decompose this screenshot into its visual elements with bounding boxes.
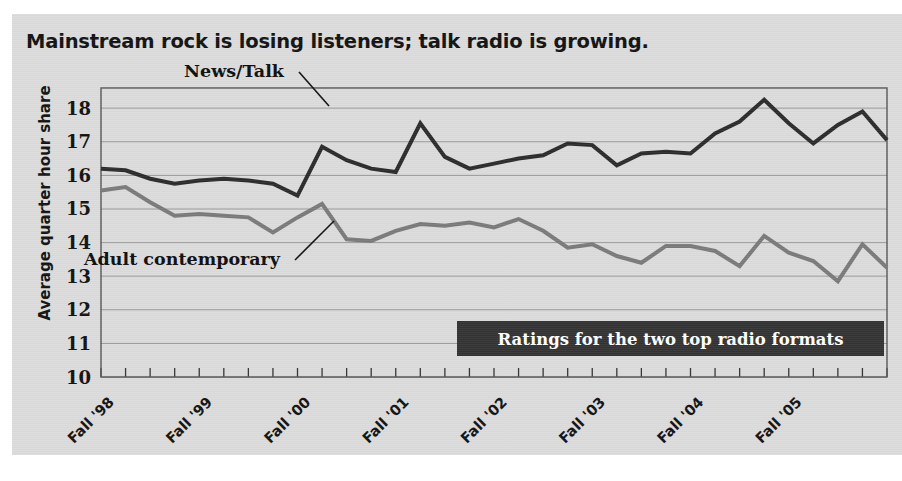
series-annotations: News/TalkAdult contemporary [83, 61, 334, 269]
x-tick-label: Fall '01 [359, 394, 412, 447]
y-tick-label: 11 [66, 333, 91, 354]
x-tick-label: Fall '00 [261, 394, 314, 447]
x-tick-label: Fall '03 [556, 394, 609, 447]
x-tick-label: Fall '98 [64, 394, 117, 447]
adult-contemporary-label: Adult contemporary [83, 249, 281, 269]
adult-contemporary-leader-line [295, 221, 334, 260]
x-tick-marks [101, 368, 887, 377]
y-tick-label: 18 [66, 98, 91, 119]
news-talk-label: News/Talk [184, 61, 285, 81]
x-tick-labels: Fall '98Fall '99Fall '00Fall '01Fall '02… [64, 394, 804, 447]
y-tick-labels: 101112131415161718 [66, 98, 91, 388]
callout-label: Ratings for the two top radio formats [498, 330, 844, 349]
series-line-news-talk [101, 100, 887, 196]
y-tick-label: 15 [66, 198, 91, 219]
chart-plot: 101112131415161718 Fall '98Fall '99Fall … [12, 14, 902, 455]
x-tick-label: Fall '05 [752, 394, 805, 447]
y-tick-label: 16 [66, 165, 91, 186]
x-tick-label: Fall '04 [654, 394, 707, 447]
y-tick-label: 12 [66, 299, 91, 320]
callout-banner: Ratings for the two top radio formats [457, 321, 884, 356]
x-tick-label: Fall '99 [163, 394, 216, 447]
x-tick-label: Fall '02 [457, 394, 510, 447]
y-tick-label: 17 [66, 131, 91, 152]
news-talk-leader-line [299, 72, 329, 106]
chart-figure: Mainstream rock is losing listeners; tal… [12, 14, 902, 455]
y-tick-label: 10 [66, 367, 91, 388]
